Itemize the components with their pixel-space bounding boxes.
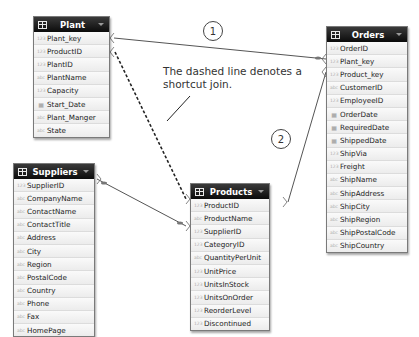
field-row[interactable]: ▦ShippedDate [327, 134, 407, 147]
calendar-icon: ▦ [330, 111, 338, 118]
field-name: ProductName [204, 214, 253, 223]
field-row[interactable]: abcRegion [14, 258, 94, 271]
field-row[interactable]: abcCustomerID [327, 82, 407, 95]
callout-pointer [167, 96, 190, 121]
field-row[interactable]: abcAddress [14, 232, 94, 245]
field-name: Capacity [47, 86, 78, 95]
field-row[interactable]: 123ReorderLevel [191, 305, 269, 318]
field-row[interactable]: abcState [34, 124, 109, 136]
field-row[interactable]: abcFax [14, 311, 94, 324]
field-row[interactable]: 123ProductID [34, 45, 109, 58]
relationship-products-orders [288, 72, 326, 202]
field-row[interactable]: abcContactTitle [14, 219, 94, 232]
field-row[interactable]: abcContactName [14, 205, 94, 218]
field-row[interactable]: 123Plant_key [34, 32, 109, 45]
field-name: ShippedDate [340, 136, 386, 145]
grid-icon [18, 168, 27, 176]
field-row[interactable]: abcShipCity [327, 200, 407, 213]
number-type-icon: 123 [194, 242, 202, 247]
field-row[interactable]: 123SupplierID [14, 179, 94, 192]
text-type-icon: abc [17, 314, 25, 319]
field-row[interactable]: abcShipPostalCode [327, 227, 407, 240]
field-row[interactable]: 123SupplierID [191, 225, 269, 238]
field-row[interactable]: 123EmployeeID [327, 95, 407, 108]
field-row[interactable]: 123PlantID [34, 58, 109, 71]
field-name: City [27, 247, 41, 256]
field-row[interactable]: 123ShipVia [327, 148, 407, 161]
table-header-orders[interactable]: Orders [327, 27, 407, 42]
field-row[interactable]: ▦Start_Date [34, 98, 109, 111]
table-title: Orders [340, 30, 396, 40]
field-name: PlantName [47, 73, 86, 82]
table-header-suppliers[interactable]: Suppliers [14, 164, 94, 179]
field-row[interactable]: abcHomePage [14, 324, 94, 336]
text-type-icon: abc [330, 177, 338, 182]
table-header-products[interactable]: Products [191, 184, 269, 199]
field-name: Start_Date [47, 100, 85, 109]
field-row[interactable]: abcShipAddress [327, 187, 407, 200]
field-row[interactable]: 123Freight [327, 161, 407, 174]
field-row[interactable]: abcShipName [327, 174, 407, 187]
field-row[interactable]: abcCity [14, 245, 94, 258]
field-row[interactable]: 123Discontinued [191, 318, 269, 330]
field-row[interactable]: abcPlantName [34, 72, 109, 85]
field-name: Fax [27, 312, 39, 321]
table-header-plant[interactable]: Plant [34, 17, 109, 32]
field-row[interactable]: 123OrderID [327, 42, 407, 55]
text-type-icon: abc [194, 216, 202, 221]
field-name: Discontinued [204, 319, 251, 328]
table-plant[interactable]: Plant 123Plant_key123ProductID123PlantID… [33, 16, 110, 138]
field-row[interactable]: abcProductName [191, 212, 269, 225]
badge-2-label: 2 [278, 134, 284, 145]
field-name: ShipCity [340, 202, 370, 211]
text-type-icon: abc [17, 235, 25, 240]
grid-icon [331, 31, 340, 39]
field-row[interactable]: abcPostalCode [14, 271, 94, 284]
text-type-icon: abc [17, 209, 25, 214]
text-type-icon: abc [330, 243, 338, 248]
text-type-icon: abc [17, 222, 25, 227]
field-row[interactable]: ▦OrderDate [327, 108, 407, 121]
text-type-icon: abc [330, 85, 338, 90]
field-name: SupplierID [204, 227, 241, 236]
chevron-down-icon[interactable] [396, 33, 402, 36]
field-row[interactable]: ▦RequiredDate [327, 121, 407, 134]
number-type-icon: 123 [194, 229, 202, 234]
field-name: Plant_key [47, 34, 81, 43]
badge-1-label: 1 [210, 26, 216, 37]
field-name: UnitsOnOrder [204, 293, 253, 302]
field-row[interactable]: 123UnitsOnOrder [191, 291, 269, 304]
field-row[interactable]: abcQuantityPerUnit [191, 252, 269, 265]
text-type-icon: abc [17, 301, 25, 306]
table-products[interactable]: Products 123ProductIDabcProductName123Su… [190, 183, 270, 331]
field-row[interactable]: 123Plant_key [327, 55, 407, 68]
field-name: OrderID [340, 44, 368, 53]
text-type-icon: abc [37, 115, 45, 120]
field-row[interactable]: 123UnitsInStock [191, 278, 269, 291]
chevron-down-icon[interactable] [258, 190, 264, 193]
number-type-icon: 123 [330, 72, 338, 77]
field-row[interactable]: abcPlant_Manger [34, 111, 109, 124]
field-row[interactable]: 123UnitPrice [191, 265, 269, 278]
calendar-icon: ▦ [330, 137, 338, 144]
field-row[interactable]: abcShipCountry [327, 240, 407, 252]
number-type-icon: 123 [194, 203, 202, 208]
field-row[interactable]: abcPhone [14, 298, 94, 311]
chevron-down-icon[interactable] [98, 23, 104, 26]
field-name: EmployeeID [340, 96, 383, 105]
text-type-icon: abc [17, 288, 25, 293]
field-row[interactable]: 123Capacity [34, 85, 109, 98]
field-row[interactable]: abcCountry [14, 285, 94, 298]
field-name: Region [27, 260, 52, 269]
field-row[interactable]: 123Product_key [327, 68, 407, 81]
field-name: ShipAddress [340, 189, 384, 198]
field-row[interactable]: abcShipRegion [327, 213, 407, 226]
field-row[interactable]: abcCompanyName [14, 192, 94, 205]
text-type-icon: abc [330, 230, 338, 235]
field-row[interactable]: 123ProductID [191, 199, 269, 212]
table-suppliers[interactable]: Suppliers 123SupplierIDabcCompanyNameabc… [13, 163, 95, 337]
field-row[interactable]: 123CategoryID [191, 239, 269, 252]
table-orders[interactable]: Orders 123OrderID123Plant_key123Product_… [326, 26, 408, 253]
grid-icon [38, 21, 47, 29]
chevron-down-icon[interactable] [83, 170, 89, 173]
